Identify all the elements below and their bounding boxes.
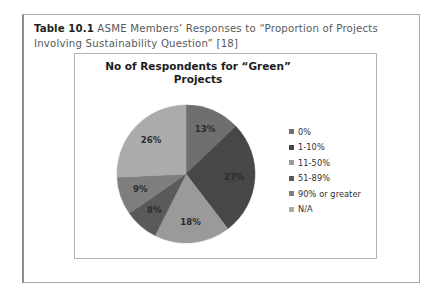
legend-swatch-icon	[289, 129, 294, 134]
table-caption: Table 10.1 ASME Members’ Responses to “P…	[34, 21, 412, 51]
pie-chart: 13%27%18%8%9%26%	[116, 104, 256, 244]
legend-item-label: N/A	[298, 204, 313, 214]
chart-title-line-2: Projects	[83, 73, 313, 86]
page-root: Table 10.1 ASME Members’ Responses to “P…	[0, 0, 445, 304]
legend-item-label: 51-89%	[298, 173, 330, 183]
legend-item-label: 1-10%	[298, 142, 325, 152]
chart-title-line-1: No of Respondents for “Green”	[83, 60, 313, 73]
pie-chart-svg: 13%27%18%8%9%26%	[116, 104, 256, 244]
legend-item[interactable]: 11-50%	[289, 155, 375, 170]
table-container: Table 10.1 ASME Members’ Responses to “P…	[22, 14, 420, 283]
pie-slice-label: 9%	[133, 184, 148, 194]
pie-slice-label: 18%	[180, 217, 201, 227]
legend-item[interactable]: 1-10%	[289, 140, 375, 155]
chart-legend: 0%1-10%11-50%51-89%90% or greaterN/A	[289, 124, 375, 217]
legend-item-label: 0%	[298, 127, 311, 137]
chart-frame: No of Respondents for “Green” Projects 1…	[74, 53, 377, 259]
legend-swatch-icon	[289, 160, 294, 165]
legend-item[interactable]: 51-89%	[289, 171, 375, 186]
legend-swatch-icon	[289, 145, 294, 150]
legend-swatch-icon	[289, 176, 294, 181]
legend-item[interactable]: 0%	[289, 124, 375, 139]
legend-swatch-icon	[289, 207, 294, 212]
legend-swatch-icon	[289, 191, 294, 196]
pie-slice-label: 8%	[147, 205, 162, 215]
legend-item-label: 11-50%	[298, 158, 330, 168]
legend-item[interactable]: N/A	[289, 202, 375, 217]
chart-title: No of Respondents for “Green” Projects	[83, 60, 313, 86]
legend-item[interactable]: 90% or greater	[289, 186, 375, 201]
pie-slice-label: 27%	[224, 172, 245, 182]
table-caption-label: Table 10.1	[34, 23, 94, 34]
legend-item-label: 90% or greater	[298, 189, 361, 199]
pie-slice-label: 13%	[195, 124, 216, 134]
pie-slice-label: 26%	[141, 135, 162, 145]
